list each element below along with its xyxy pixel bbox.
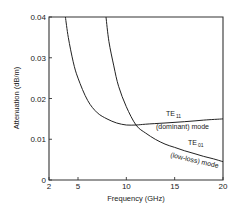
x-tick-label: 15 xyxy=(170,182,179,191)
y-tick-label: 0 xyxy=(42,176,47,185)
x-tick-label: 5 xyxy=(76,182,81,191)
y-tick-label: 0.02 xyxy=(30,95,46,104)
x-axis-label: Frequency (GHz) xyxy=(107,194,165,203)
attenuation-chart: 2510152000.010.020.030.04 Frequency (GHz… xyxy=(0,0,236,210)
x-tick-label: 10 xyxy=(122,182,131,191)
y-tick-label: 0.04 xyxy=(30,13,46,22)
y-tick-label: 0.01 xyxy=(30,135,46,144)
te11-curve xyxy=(65,17,223,125)
mode-annotations: TE11 (dominant) mode TE01 (low-loss) mod… xyxy=(156,110,220,170)
x-tick-label: 20 xyxy=(219,182,228,191)
y-tick-label: 0.03 xyxy=(30,54,46,63)
x-tick-label: 2 xyxy=(47,182,52,191)
te11-mode-label: (dominant) mode xyxy=(156,123,209,131)
te01-curve xyxy=(106,17,223,162)
plot-frame xyxy=(49,17,223,180)
y-axis-label: Attenuation (dB/m) xyxy=(12,66,21,129)
te11-label: TE11 xyxy=(166,110,181,119)
te01-label: TE01 xyxy=(188,139,204,148)
curves xyxy=(65,17,223,162)
